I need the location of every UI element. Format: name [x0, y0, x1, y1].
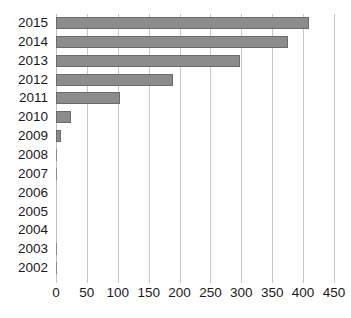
y-axis-label-2015: 2015: [18, 14, 48, 33]
y-axis-label-2007: 2007: [18, 165, 48, 184]
bar-row: [56, 108, 334, 127]
x-axis-label-200: 200: [168, 283, 191, 303]
y-axis-label-2013: 2013: [18, 52, 48, 71]
x-axis-tick-labels: 050100150200250300350400450: [0, 283, 351, 305]
bar-2013[interactable]: [56, 55, 240, 67]
y-axis-label-2006: 2006: [18, 184, 48, 203]
bar-row: [56, 203, 334, 222]
bar-row: [56, 259, 334, 278]
x-axis-label-400: 400: [292, 283, 315, 303]
bar-row: [56, 184, 334, 203]
bar-row: [56, 14, 334, 33]
x-axis-tick-300: [241, 278, 242, 283]
x-axis-label-50: 50: [79, 283, 94, 303]
bar-row: [56, 146, 334, 165]
x-axis-label-350: 350: [261, 283, 284, 303]
x-axis-tick-0: [56, 278, 57, 283]
x-axis-label-100: 100: [107, 283, 130, 303]
bar-row: [56, 33, 334, 52]
x-axis-label-250: 250: [199, 283, 222, 303]
x-axis-label-300: 300: [230, 283, 253, 303]
y-axis-label-2009: 2009: [18, 127, 48, 146]
bar-row: [56, 240, 334, 259]
x-axis-tick-350: [272, 278, 273, 283]
y-axis-label-2011: 2011: [19, 89, 48, 108]
bar-2011[interactable]: [56, 92, 120, 104]
x-axis-tick-200: [180, 278, 181, 283]
x-axis-tick-100: [118, 278, 119, 283]
y-axis-category-labels: 2015201420132012201120102009200820072006…: [0, 14, 52, 278]
y-axis-label-2010: 2010: [18, 108, 48, 127]
bar-2012[interactable]: [56, 74, 173, 86]
bar-row: [56, 127, 334, 146]
gridline-450: [334, 14, 335, 278]
x-axis-tick-400: [303, 278, 304, 283]
plot-area: [56, 14, 334, 278]
bar-2010[interactable]: [56, 111, 71, 123]
bar-2003[interactable]: [56, 243, 57, 255]
x-axis-tick-150: [149, 278, 150, 283]
x-axis-tick-450: [334, 278, 335, 283]
y-axis-label-2008: 2008: [18, 146, 48, 165]
bar-row: [56, 89, 334, 108]
bar-row: [56, 71, 334, 90]
bar-row: [56, 221, 334, 240]
bar-2008[interactable]: [56, 149, 57, 161]
bar-chart: 2015201420132012201120102009200820072006…: [0, 0, 351, 318]
y-axis-label-2003: 2003: [18, 240, 48, 259]
bar-2009[interactable]: [56, 130, 61, 142]
bar-2002[interactable]: [56, 262, 57, 274]
x-axis-label-0: 0: [52, 283, 60, 303]
bar-2014[interactable]: [56, 36, 288, 48]
x-axis-label-150: 150: [137, 283, 160, 303]
x-axis-label-450: 450: [323, 283, 346, 303]
x-axis-tick-50: [87, 278, 88, 283]
bar-2007[interactable]: [56, 168, 57, 180]
bar-row: [56, 52, 334, 71]
bar-2015[interactable]: [56, 17, 309, 29]
bar-row: [56, 165, 334, 184]
y-axis-label-2014: 2014: [18, 33, 48, 52]
y-axis-label-2004: 2004: [18, 221, 48, 240]
x-axis-tick-250: [210, 278, 211, 283]
y-axis-label-2005: 2005: [18, 203, 48, 222]
y-axis-label-2002: 2002: [18, 259, 48, 278]
y-axis-label-2012: 2012: [18, 71, 48, 90]
